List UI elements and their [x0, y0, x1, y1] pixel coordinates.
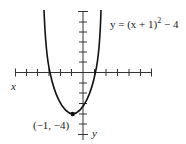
- equation-label: y = (x + 1)2 − 4: [110, 16, 179, 31]
- equation-rhs: − 4: [161, 18, 179, 30]
- vertex-label: (−1, −4): [33, 119, 70, 132]
- y-axis: [78, 11, 88, 140]
- equation-lhs: y = (x + 1): [110, 18, 158, 31]
- vertex-point: [71, 112, 75, 116]
- parabola-curve: [44, 10, 101, 114]
- x-axis-label: x: [10, 80, 16, 92]
- parabola-graph: x y (−1, −4) y = (x + 1)2 − 4: [0, 0, 186, 144]
- y-axis-label: y: [91, 127, 97, 139]
